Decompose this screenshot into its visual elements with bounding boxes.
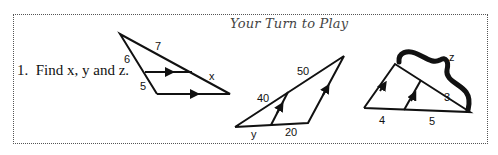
label-4: 4 <box>379 114 385 126</box>
label-40: 40 <box>257 92 269 104</box>
label-7: 7 <box>155 40 161 52</box>
triangle-3-figure <box>364 64 470 112</box>
triangle-1-figure <box>120 34 230 94</box>
label-y: y <box>251 128 257 140</box>
label-20: 20 <box>285 126 297 138</box>
label-3: 3 <box>444 91 450 103</box>
label-z: z <box>449 51 455 63</box>
label-x: x <box>209 70 215 82</box>
label-5b: 5 <box>429 115 435 127</box>
label-5: 5 <box>140 80 146 92</box>
label-50: 50 <box>297 65 309 77</box>
label-6: 6 <box>124 53 130 65</box>
geometry-figures: 7 6 5 x 40 50 y 20 z 3 4 5 <box>0 0 498 155</box>
triangle-2-figure <box>235 56 344 127</box>
